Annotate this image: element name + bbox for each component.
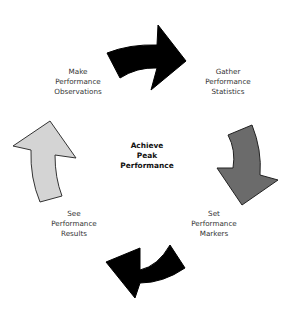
step-line: Performance	[33, 77, 123, 87]
step-line: Performance	[183, 77, 273, 87]
step-line: Set	[169, 209, 259, 219]
step-label-see: See Performance Results	[29, 209, 119, 239]
arrow-down-icon	[217, 125, 278, 205]
arrow-up-icon	[13, 121, 76, 202]
step-line: Performance	[169, 219, 259, 229]
step-line: Make	[33, 67, 123, 77]
step-label-make: Make Performance Observations	[33, 67, 123, 97]
center-line: Achieve	[102, 141, 192, 151]
step-line: Observations	[33, 87, 123, 97]
step-line: Markers	[169, 229, 259, 239]
center-line: Performance	[102, 161, 192, 171]
step-line: Gather	[183, 67, 273, 77]
arrow-left-icon	[106, 245, 185, 298]
center-line: Peak	[102, 151, 192, 161]
step-label-set: Set Performance Markers	[169, 209, 259, 239]
step-label-gather: Gather Performance Statistics	[183, 67, 273, 97]
step-line: Statistics	[183, 87, 273, 97]
center-goal-label: Achieve Peak Performance	[102, 141, 192, 171]
step-line: See	[29, 209, 119, 219]
step-line: Results	[29, 229, 119, 239]
step-line: Performance	[29, 219, 119, 229]
